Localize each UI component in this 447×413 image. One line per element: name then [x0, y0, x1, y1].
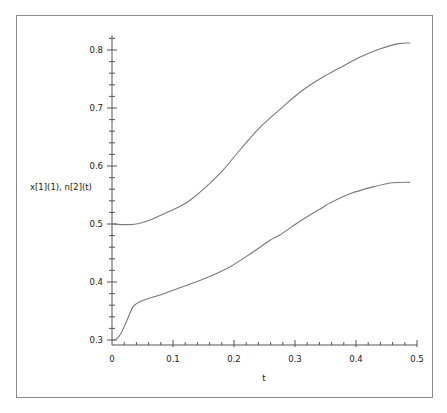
y-tick-label: 0.7 [89, 103, 103, 113]
y-tick-label: 0.4 [89, 277, 103, 287]
y-tick-label: 0.6 [89, 161, 103, 171]
line-chart: 0.30.40.50.60.70.8 00.10.20.30.40.5 t x[… [0, 0, 447, 413]
x-tick-label: 0.4 [349, 354, 363, 364]
x-tick-label: 0 [109, 354, 114, 364]
x-tick-label: 0.5 [410, 354, 424, 364]
x-tick-label: 0.1 [166, 354, 180, 364]
x-tick-label: 0.3 [288, 354, 302, 364]
x-tick-label: 0.2 [227, 354, 241, 364]
y-axis: 0.30.40.50.60.70.8 [89, 36, 117, 346]
y-axis-title: x[1](1), n[2](t) [30, 182, 92, 192]
y-tick-label: 0.5 [89, 219, 103, 229]
y-tick-label: 0.3 [89, 335, 103, 345]
series-upper-curve [112, 43, 410, 225]
x-axis: 00.10.20.30.40.5 [109, 340, 423, 364]
y-tick-label: 0.8 [89, 45, 103, 55]
series-lower-curve [112, 182, 410, 340]
x-axis-title: t [262, 373, 266, 383]
series-group [112, 43, 410, 340]
